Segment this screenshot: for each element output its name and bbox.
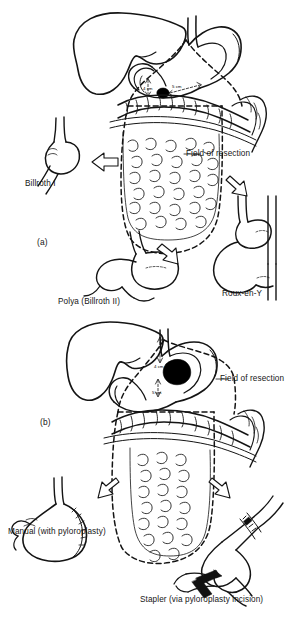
arrow-manual[interactable] <box>98 478 119 498</box>
field-of-resection-label-b: Field of resection <box>220 375 284 383</box>
mesentery-band-a <box>110 117 256 146</box>
roux-en-y-inset <box>214 195 276 300</box>
manual-pyloroplasty-inset <box>12 477 87 561</box>
billroth-1-label: Billroth I <box>25 180 56 188</box>
right-colon-b <box>230 410 264 467</box>
tumor-marker-a <box>157 88 169 98</box>
field-of-resection-label-a: Field of resection <box>186 150 250 158</box>
panel-label-b: (b) <box>40 418 51 426</box>
polya-inset <box>84 231 178 301</box>
manual-pyloroplasty-label: Manual (with pyloroplasty) <box>8 528 106 536</box>
figure-artwork <box>0 0 307 618</box>
esophagus-a <box>188 16 198 47</box>
stapler-pyloroplasty-label: Stapler (via pyloroplasty incision) <box>140 596 263 604</box>
tumor-marker-b <box>163 359 191 384</box>
panel-b-artwork <box>12 322 283 606</box>
transverse-colon-b <box>112 410 250 447</box>
dimension-label-a-distal: 5 cm <box>172 85 182 89</box>
arrow-roux[interactable] <box>226 176 247 196</box>
stomach-a <box>189 27 241 88</box>
roux-en-y-label: Roux-en-Y <box>222 290 262 298</box>
right-colon-a <box>232 96 266 152</box>
small-bowel-mass-b <box>138 452 192 562</box>
polya-billroth-2-label: Polya (Billroth II) <box>58 298 120 306</box>
resection-field-dashed-a <box>121 40 242 253</box>
dimension-label-a-proximal: 4 cm <box>143 87 153 91</box>
dimension-label-b-proximal: 4 cm <box>154 365 164 369</box>
duodenum-b <box>109 378 176 412</box>
arrow-stapler[interactable] <box>209 478 230 498</box>
surgical-figure: Field of resection Field of resection Bi… <box>0 0 307 618</box>
dimension-label-b-distal: 5 cm <box>152 391 162 395</box>
stapler-inset <box>174 496 283 606</box>
transverse-colon-a <box>118 95 250 132</box>
panel-label-a: (a) <box>37 238 48 246</box>
arrow-billroth1[interactable] <box>92 153 118 171</box>
